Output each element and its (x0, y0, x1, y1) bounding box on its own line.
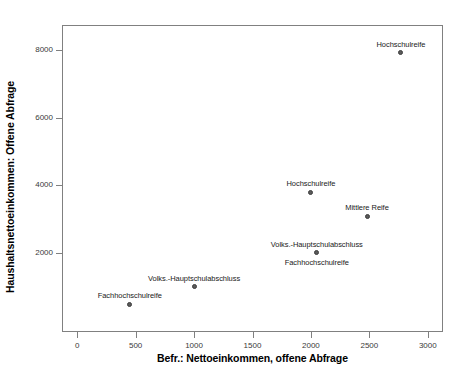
x-tick-label: 500 (116, 341, 156, 350)
data-point[interactable] (365, 214, 370, 219)
x-tick-label: 0 (57, 341, 97, 350)
data-point-label: Volks.-Hauptschulabschluss (148, 274, 240, 283)
x-tick-label: 1000 (174, 341, 214, 350)
x-tick-mark (253, 332, 254, 338)
y-tick-label: 2000 (35, 248, 53, 257)
y-tick-label: 4000 (35, 180, 53, 189)
data-point-label: Volks.-Hauptschulabschluss (271, 240, 363, 249)
data-point-label: Hochschulreife (376, 40, 425, 49)
x-tick-mark (136, 332, 137, 338)
y-tick-mark (56, 118, 62, 119)
scatter-chart: Haushaltsnettoeinkommen: Offene Abfrage … (0, 0, 462, 379)
x-axis-title: Befr.: Nettoeinkommen, offene Abfrage (62, 352, 443, 364)
x-tick-mark (194, 332, 195, 338)
y-tick-label: 6000 (35, 113, 53, 122)
y-axis-title: Haushaltsnettoeinkommen: Offene Abfrage (1, 34, 19, 341)
x-tick-mark (77, 332, 78, 338)
y-tick-mark (56, 50, 62, 51)
data-point-label: Hochschulreife (286, 179, 335, 188)
x-tick-mark (428, 332, 429, 338)
data-point-label: Fachhochschulreife (285, 258, 349, 267)
data-point-label: Fachhochschulreife (98, 291, 162, 300)
x-tick-label: 2000 (291, 341, 331, 350)
x-tick-mark (369, 332, 370, 338)
y-tick-label: 8000 (35, 45, 53, 54)
y-tick-mark (56, 253, 62, 254)
x-tick-mark (311, 332, 312, 338)
y-tick-mark (56, 185, 62, 186)
plot-area (62, 25, 443, 332)
x-tick-label: 1500 (233, 341, 273, 350)
x-tick-label: 3000 (408, 341, 448, 350)
data-point-label: Mittlere Reife (345, 203, 388, 212)
data-point[interactable] (192, 284, 197, 289)
x-tick-label: 2500 (349, 341, 389, 350)
